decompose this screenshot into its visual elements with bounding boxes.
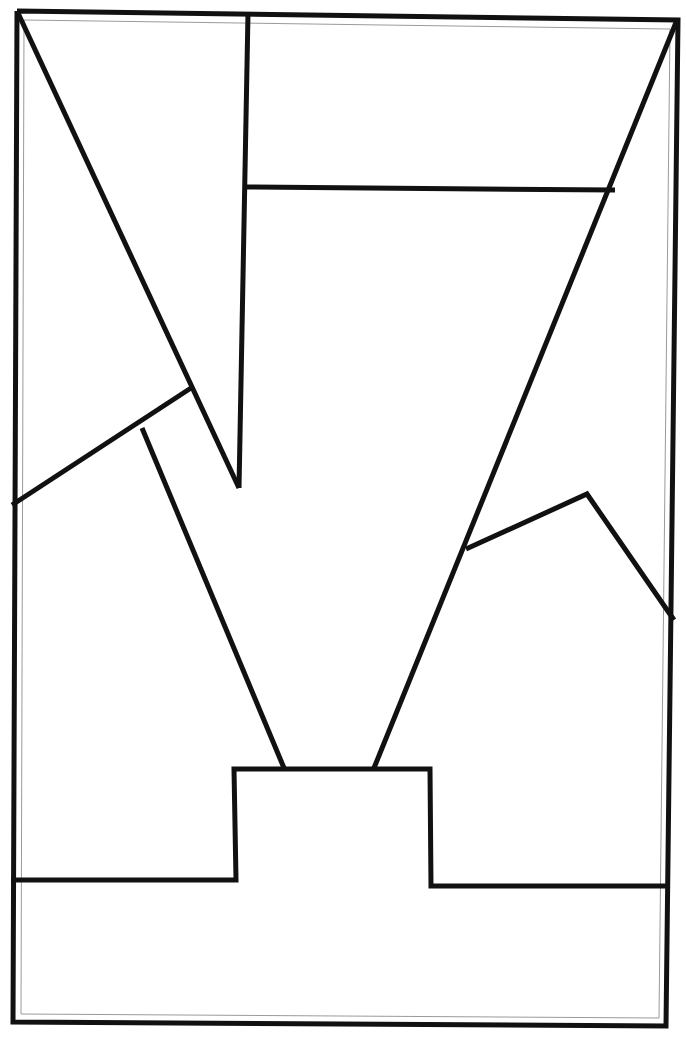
canvas-background	[0, 0, 686, 1039]
horizontal-crossbar	[246, 187, 615, 190]
line-drawing-figure	[0, 0, 686, 1039]
drawing-canvas	[0, 0, 686, 1039]
